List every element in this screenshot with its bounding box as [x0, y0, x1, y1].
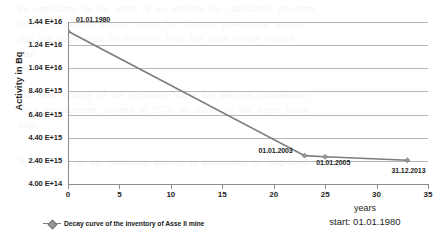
start-date-note: start: 01.01.1980 [310, 216, 420, 227]
y-axis-tick-label: 6.40 E+15 [14, 110, 62, 119]
x-axis-tick-mark [377, 185, 378, 189]
y-axis-tick-label: 1.44 E+16 [14, 17, 62, 26]
x-axis-tick-label: 30 [364, 190, 390, 199]
legend-marker-icon [43, 223, 61, 224]
data-point-label: 01.01.1980 [76, 16, 110, 23]
x-axis-tick-mark [119, 185, 120, 189]
x-axis-tick-label: 0 [55, 190, 81, 199]
x-axis-tick-label: 35 [415, 190, 441, 199]
x-axis-tick-mark [68, 185, 69, 189]
x-axis-tick-label: 5 [106, 190, 132, 199]
data-point-marker[interactable] [405, 158, 410, 163]
x-axis-tick-label: 15 [209, 190, 235, 199]
x-axis-tick-mark [171, 185, 172, 189]
y-axis-tick-labels: 1.44 E+161.24 E+161.04 E+168.40 E+156.40… [8, 0, 62, 241]
data-point-label: 01.01.2005 [316, 159, 350, 166]
x-axis-line [68, 184, 429, 185]
series-decay-curve [68, 22, 428, 184]
x-axis-tick-label: 20 [261, 190, 287, 199]
x-axis-tick-mark [428, 185, 429, 189]
data-point-label: 01.01.2003 [259, 147, 293, 154]
x-axis-tick-label: 25 [312, 190, 338, 199]
x-axis-tick-mark [222, 185, 223, 189]
y-axis-tick-label: 1.04 E+16 [14, 63, 62, 72]
x-axis-tick-mark [274, 185, 275, 189]
chart-legend[interactable]: Decay curve of the inventory of Asse II … [43, 220, 204, 227]
decay-curve-chart: Activity in Bq 1.44 E+161.24 E+161.04 E+… [0, 0, 443, 241]
legend-entry-label: Decay curve of the inventory of Asse II … [64, 220, 204, 227]
x-axis-title: years [330, 203, 400, 213]
y-axis-tick-label: 2.40 E+15 [14, 156, 62, 165]
x-axis-tick-mark [325, 185, 326, 189]
y-axis-tick-label: 1.24 E+16 [14, 40, 62, 49]
y-axis-tick-label: 4.40 E+15 [14, 133, 62, 142]
x-axis-tick-label: 10 [158, 190, 184, 199]
data-point-label: 31.12.2013 [391, 167, 425, 174]
y-axis-tick-label: 8.40 E+15 [14, 86, 62, 95]
series-line [68, 31, 407, 160]
y-axis-tick-label: 4.00 E+14 [14, 179, 62, 188]
